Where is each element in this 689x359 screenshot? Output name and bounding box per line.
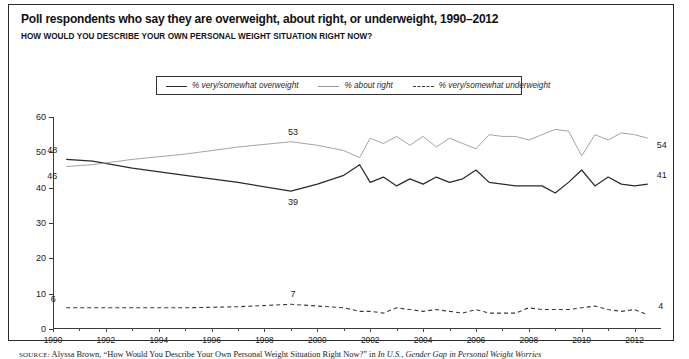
legend-item-3[interactable]: % very/somewhat underweight (413, 81, 551, 90)
legend-swatch-solid-icon (166, 82, 187, 90)
plot-area: 0102030405060 19901992199419961998200020… (53, 117, 661, 329)
source-italic-title: In U.S., Gender Gap in Personal Weight W… (378, 350, 542, 359)
x-tick-label: 1996 (202, 335, 221, 345)
y-tick-label: 30 (36, 218, 46, 228)
y-tick-label: 20 (36, 253, 46, 263)
y-tick-label: 50 (36, 147, 46, 157)
data-label: 53 (288, 127, 298, 137)
y-tick-label: 40 (36, 183, 46, 193)
x-tick-label: 1992 (97, 335, 116, 345)
legend-label: % very/somewhat underweight (439, 81, 551, 90)
chart-title: Poll respondents who say they are overwe… (21, 12, 498, 26)
legend-label: % very/somewhat overweight (192, 81, 298, 90)
x-tick-label: 2006 (467, 335, 486, 345)
x-tick-label: 1994 (149, 335, 168, 345)
x-tick-label: 2008 (519, 335, 538, 345)
data-label: 4 (658, 301, 663, 311)
x-tick-label: 2012 (625, 335, 644, 345)
data-label: 6 (51, 294, 56, 304)
data-label: 41 (657, 170, 667, 180)
series-lines (53, 117, 661, 329)
data-label: 46 (47, 171, 57, 181)
chart-figure: Poll respondents who say they are overwe… (8, 4, 674, 341)
series-line (66, 159, 648, 193)
series-line (66, 304, 648, 315)
source-text: Alyssa Brown, “How Would You Describe Yo… (50, 350, 378, 359)
source-note: SOURCE: Alyssa Brown, “How Would You Des… (19, 350, 689, 359)
chart-subtitle: HOW WOULD YOU DESCRIBE YOUR OWN PERSONAL… (21, 31, 372, 41)
legend-label: % about right (344, 81, 392, 90)
x-tick-label: 2002 (361, 335, 380, 345)
y-tick-label: 60 (36, 112, 46, 122)
y-tick-label: 10 (36, 289, 46, 299)
x-tick-label: 2004 (414, 335, 433, 345)
legend-swatch-thin-icon (318, 82, 339, 90)
x-tick-label: 1990 (44, 335, 63, 345)
series-line (66, 129, 648, 166)
legend-swatch-dashed-icon (413, 82, 434, 90)
x-tick-label: 2010 (572, 335, 591, 345)
chart-legend: % very/somewhat overweight% about right%… (156, 76, 522, 95)
x-tick-label: 1998 (255, 335, 274, 345)
data-label: 7 (290, 289, 295, 299)
y-tick-label: 0 (41, 324, 46, 334)
data-label: 54 (657, 140, 667, 150)
legend-item-1[interactable]: % very/somewhat overweight (166, 81, 298, 90)
data-label: 39 (288, 197, 298, 207)
source-prefix: SOURCE: (19, 351, 50, 359)
data-label: 48 (47, 145, 57, 155)
legend-item-2[interactable]: % about right (318, 81, 392, 90)
x-tick-label: 2000 (308, 335, 327, 345)
